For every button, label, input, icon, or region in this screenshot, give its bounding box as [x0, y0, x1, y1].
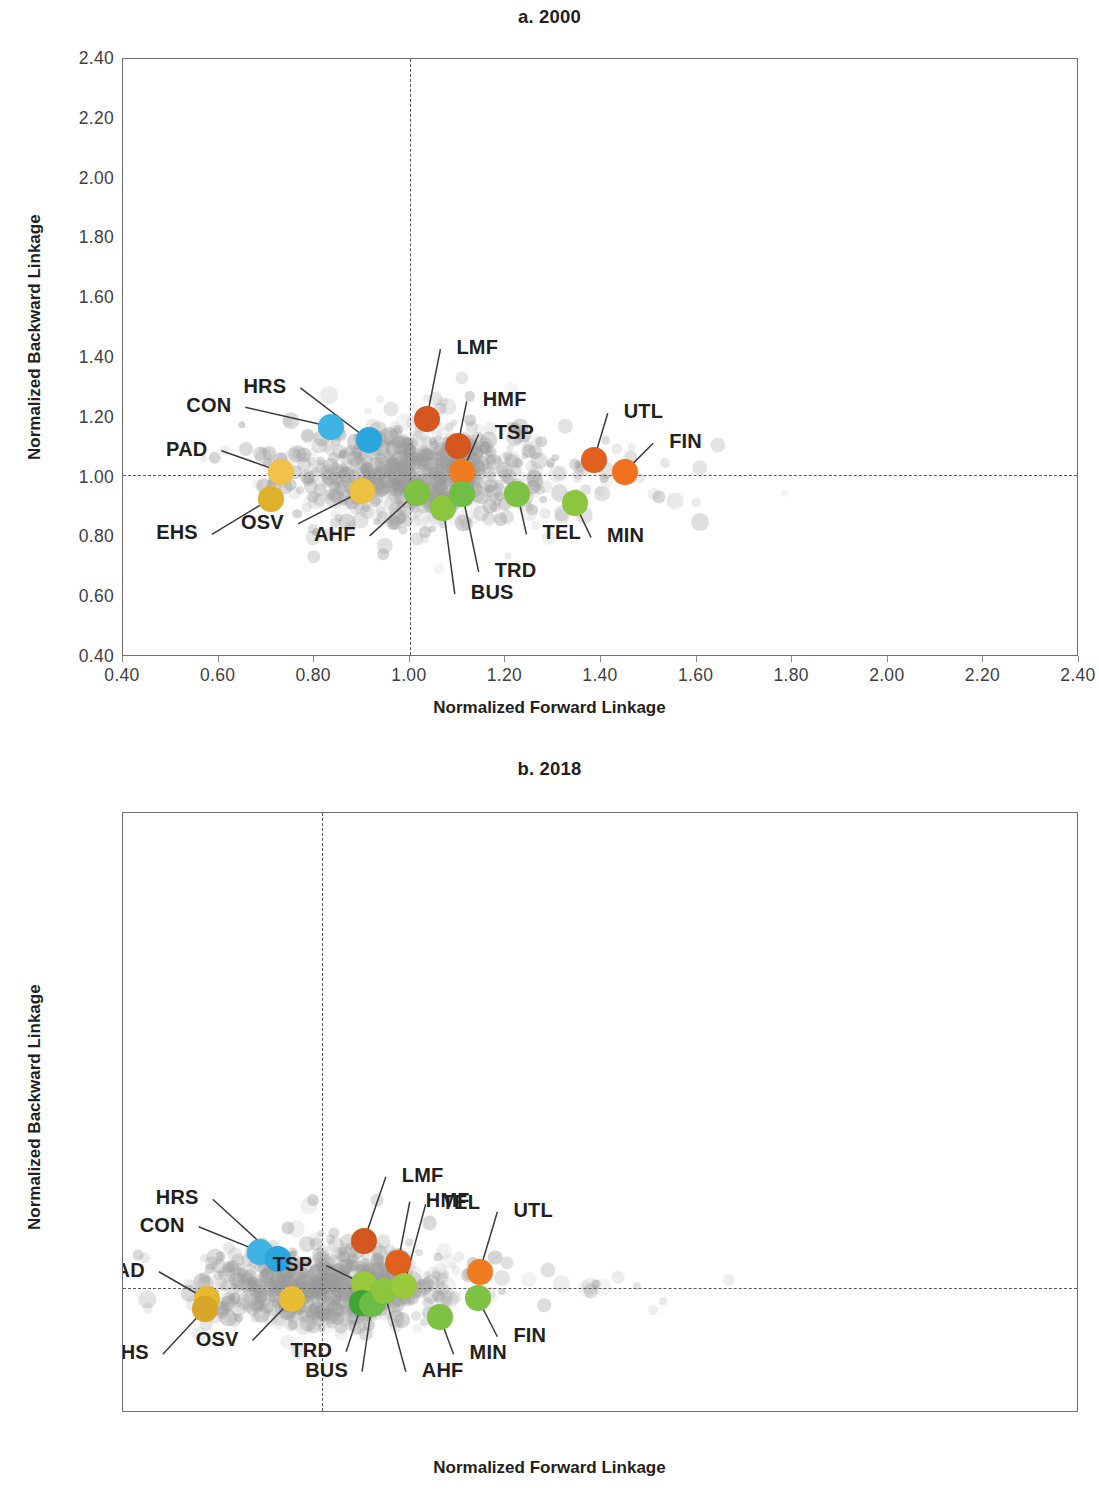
highlighted-point-utl[interactable] — [581, 447, 607, 473]
cloud-dot — [216, 1252, 225, 1261]
point-label-fin: FIN — [513, 1324, 546, 1347]
cloud-dot — [521, 1272, 537, 1288]
point-label-tel: TEL — [442, 1191, 480, 1214]
highlighted-point-fin[interactable] — [465, 1285, 491, 1311]
cloud-dot — [223, 1242, 235, 1254]
cloud-dot — [405, 1238, 413, 1246]
cloud-dot — [416, 448, 434, 466]
cloud-dot — [303, 476, 314, 487]
x-tick-mark — [122, 656, 123, 662]
point-label-pad: PAD — [122, 1259, 145, 1282]
cloud-dot — [648, 1305, 658, 1315]
cloud-dot — [317, 1230, 325, 1238]
cloud-dot — [411, 1311, 421, 1321]
cloud-dot — [582, 1278, 599, 1295]
cloud-dot — [691, 513, 709, 531]
cloud-dot — [334, 1272, 345, 1283]
cloud-dot — [529, 486, 540, 497]
highlighted-point-hmf[interactable] — [445, 433, 471, 459]
cloud-dot — [528, 446, 542, 460]
highlighted-point-min[interactable] — [562, 490, 588, 516]
highlighted-point-utl[interactable] — [467, 1259, 493, 1285]
highlighted-point-lmf[interactable] — [414, 406, 440, 432]
cloud-dot — [396, 413, 414, 431]
cloud-dot — [612, 1271, 625, 1284]
y-tick-label: 1.40 — [4, 347, 114, 368]
point-label-osv: OSV — [241, 511, 284, 534]
point-label-pad: PAD — [166, 438, 207, 461]
highlighted-point-ehs[interactable] — [258, 486, 284, 512]
point-label-utl: UTL — [624, 400, 663, 423]
cloud-dot — [350, 456, 368, 474]
panel-b-x-axis-title: Normalized Forward Linkage — [0, 1458, 1099, 1478]
cloud-dot — [660, 458, 670, 468]
y-tick-label: 0.80 — [4, 526, 114, 547]
x-tick-label: 1.20 — [464, 665, 544, 686]
figure-root: a. 2000 Normalized Backward Linkage Norm… — [0, 0, 1099, 1507]
highlighted-point-ehs[interactable] — [192, 1296, 218, 1322]
cloud-dot — [296, 486, 304, 494]
highlighted-point-trd[interactable] — [449, 481, 475, 507]
highlighted-point-min[interactable] — [427, 1304, 453, 1330]
cloud-dot — [138, 1290, 156, 1308]
cloud-dot — [377, 1235, 391, 1249]
point-label-con: CON — [140, 1214, 185, 1237]
point-label-min: MIN — [470, 1341, 507, 1364]
highlighted-point-hrs[interactable] — [356, 427, 382, 453]
highlighted-point-tel[interactable] — [391, 1273, 417, 1299]
x-tick-mark — [887, 656, 888, 662]
highlighted-point-tel[interactable] — [504, 481, 530, 507]
cloud-dot — [628, 442, 636, 450]
point-label-lmf: LMF — [456, 336, 498, 359]
y-tick-label: 1.00 — [4, 466, 114, 487]
panel-a-x-axis-title: Normalized Forward Linkage — [0, 698, 1099, 718]
cloud-dot — [612, 444, 623, 455]
cloud-dot — [377, 538, 393, 554]
cloud-dot — [385, 1310, 394, 1319]
cloud-dot — [711, 438, 726, 453]
point-label-tel: TEL — [542, 521, 580, 544]
x-tick-label: 1.80 — [751, 665, 831, 686]
cloud-dot — [500, 1256, 513, 1269]
cloud-dot — [539, 508, 551, 520]
cloud-dot — [464, 414, 476, 426]
highlighted-point-fin[interactable] — [612, 459, 638, 485]
cloud-dot — [498, 1288, 506, 1296]
cloud-dot — [551, 454, 559, 462]
cloud-dot — [292, 509, 302, 519]
point-label-ehs: EHS — [156, 521, 198, 544]
x-tick-label: 1.00 — [369, 665, 449, 686]
x-tick-label: 2.00 — [847, 665, 927, 686]
point-label-hrs: HRS — [243, 375, 286, 398]
cloud-dot — [304, 495, 317, 508]
cloud-dot — [453, 1251, 464, 1262]
cloud-dot — [436, 1243, 452, 1259]
point-label-bus: BUS — [471, 581, 514, 604]
x-tick-mark — [791, 656, 792, 662]
x-tick-label: 2.20 — [942, 665, 1022, 686]
cloud-dot — [532, 521, 540, 529]
cloud-dot — [393, 459, 401, 467]
chart-panel-a: a. 2000 Normalized Backward Linkage Norm… — [0, 0, 1099, 740]
x-tick-label: 1.40 — [560, 665, 640, 686]
highlighted-point-lmf[interactable] — [351, 1228, 377, 1254]
point-label-hrs: HRS — [156, 1186, 199, 1209]
cloud-dot — [419, 1279, 426, 1286]
x-tick-mark — [696, 656, 697, 662]
x-tick-mark — [218, 656, 219, 662]
cloud-dot — [541, 1262, 556, 1277]
cloud-dot — [781, 489, 788, 496]
cloud-dot — [410, 532, 423, 545]
x-tick-label: 0.60 — [178, 665, 258, 686]
cloud-dot — [647, 488, 660, 501]
cloud-dot — [473, 505, 489, 521]
cloud-dot — [659, 1297, 667, 1305]
highlighted-point-osv[interactable] — [349, 478, 375, 504]
highlighted-point-con[interactable] — [318, 414, 344, 440]
cloud-dot — [238, 421, 245, 428]
highlighted-point-pad[interactable] — [268, 459, 294, 485]
point-label-tsp: TSP — [273, 1253, 313, 1276]
highlighted-point-ahf[interactable] — [404, 480, 430, 506]
cloud-dot — [282, 412, 299, 429]
highlighted-point-osv[interactable] — [279, 1286, 305, 1312]
